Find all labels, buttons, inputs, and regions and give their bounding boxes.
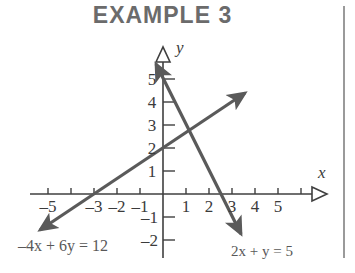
y-tick-label-5: 5 [143, 70, 161, 90]
x-tick-label-4: 4 [246, 197, 264, 217]
y-tick-label-1: 1 [143, 162, 161, 182]
x-tick-label-neg3: –3 [82, 197, 106, 217]
x-tick-label-neg5: –5 [36, 197, 60, 217]
x-tick-label-2: 2 [200, 197, 218, 217]
equation-label-line1: –4x + 6y = 12 [18, 237, 108, 255]
x-tick-label-3: 3 [223, 197, 241, 217]
x-tick-label-1: 1 [177, 197, 195, 217]
x-axis-ticks [48, 188, 301, 194]
x-axis-label: x [318, 163, 326, 183]
x-axis-arrowhead [312, 187, 327, 201]
x-tick-label-5: 5 [269, 197, 287, 217]
y-tick-label-neg2: –2 [138, 231, 161, 251]
figure-root: EXAMPLE 3 [0, 0, 355, 273]
y-tick-label-4: 4 [143, 93, 161, 113]
y-tick-label-3: 3 [143, 116, 161, 136]
equation-label-line2: 2x + y = 5 [231, 243, 293, 260]
y-axis-arrowhead [156, 47, 170, 62]
y-axis-ticks [163, 79, 175, 240]
x-tick-label-neg1: –1 [128, 197, 152, 217]
y-axis-label: y [176, 38, 184, 58]
y-tick-label-2: 2 [143, 139, 161, 159]
x-tick-label-neg2: –2 [105, 197, 129, 217]
